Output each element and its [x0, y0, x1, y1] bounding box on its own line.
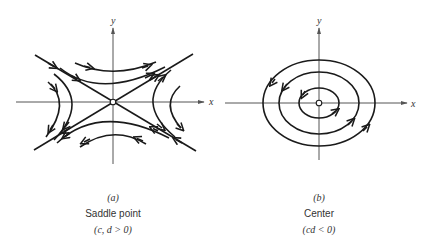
center-panel: x y — [225, 15, 416, 160]
caption-saddle: (a) Saddle point (c, d > 0) — [43, 190, 183, 238]
center-y-label: y — [316, 15, 322, 26]
saddle-equilibrium-point — [110, 99, 116, 105]
panel-condition-a: (c, d > 0) — [43, 222, 183, 238]
caption-center: (b) Center (cd < 0) — [249, 190, 389, 238]
panel-condition-b: (cd < 0) — [249, 222, 389, 238]
panel-title-a: Saddle point — [43, 206, 183, 222]
panel-label-a: (a) — [43, 190, 183, 206]
trajectory-left-inner — [54, 74, 72, 140]
center-equilibrium-point — [316, 100, 322, 106]
trajectory-left-outer — [46, 82, 60, 137]
saddle-point-panel: x y — [16, 15, 214, 164]
trajectory-right-outer — [170, 86, 181, 128]
center-x-label: x — [410, 98, 416, 109]
panel-title-b: Center — [249, 206, 389, 222]
saddle-x-label: x — [208, 96, 214, 107]
saddle-y-label: y — [110, 15, 116, 26]
panel-label-b: (b) — [249, 190, 389, 206]
